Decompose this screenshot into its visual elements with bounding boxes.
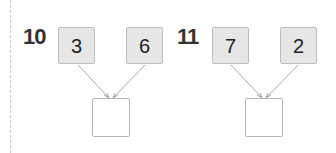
connector-arrows <box>0 0 336 153</box>
right-number-box: 2 <box>280 27 317 64</box>
answer-box[interactable] <box>245 98 283 137</box>
left-number-box: 7 <box>212 27 249 64</box>
right-number-box: 6 <box>126 27 163 64</box>
answer-box[interactable] <box>92 98 130 137</box>
problem-number: 11 <box>177 24 198 50</box>
left-number-box: 3 <box>58 27 95 64</box>
problem-number: 10 <box>23 24 45 50</box>
